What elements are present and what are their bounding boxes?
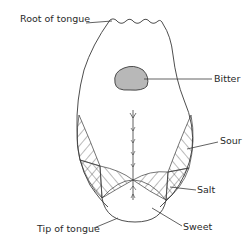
- sweet-leader: [152, 208, 182, 226]
- sour-zone-left: [77, 115, 100, 166]
- bitter-label: Bitter: [214, 74, 240, 84]
- tongue-root-wavy: [110, 19, 163, 24]
- tip-label: Tip of tongue: [37, 224, 100, 234]
- root-label: Root of tongue: [20, 14, 90, 24]
- salt-label: Salt: [197, 185, 215, 195]
- bitter-zone: [115, 66, 148, 90]
- sweet-tip-zone: [102, 198, 166, 222]
- tongue-diagram: [0, 0, 250, 243]
- sweet-label: Sweet: [183, 222, 212, 232]
- sour-label: Sour: [220, 136, 242, 146]
- salt-zone-left: [100, 166, 133, 198]
